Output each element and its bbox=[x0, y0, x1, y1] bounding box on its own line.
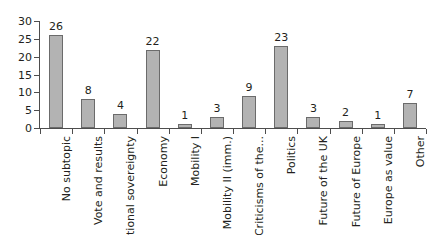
x-tick-mark bbox=[201, 129, 202, 134]
bar-group: 23 bbox=[265, 21, 297, 128]
x-tick-mark bbox=[137, 129, 138, 134]
x-tick-mark bbox=[394, 129, 395, 134]
y-tick-mark bbox=[34, 110, 39, 111]
x-tick-mark bbox=[104, 129, 105, 134]
bar-chart-figure: 051015202530 268422139233217 No subtopic… bbox=[0, 0, 438, 235]
x-tick-label: Politics bbox=[286, 136, 298, 174]
bar-group: 3 bbox=[201, 21, 233, 128]
y-tick-mark bbox=[34, 57, 39, 58]
bar-value-label: 2 bbox=[342, 107, 349, 118]
bar-value-label: 26 bbox=[49, 21, 63, 32]
bar bbox=[113, 114, 127, 128]
bar bbox=[178, 124, 192, 128]
y-tick-label: 0 bbox=[25, 123, 32, 134]
bar-value-label: 1 bbox=[374, 110, 381, 121]
x-tick-mark bbox=[265, 129, 266, 134]
x-tick-mark bbox=[169, 129, 170, 134]
bar-group: 26 bbox=[40, 21, 72, 128]
bar-group: 8 bbox=[72, 21, 104, 128]
bar-group: 7 bbox=[394, 21, 426, 128]
bar-group: 9 bbox=[233, 21, 265, 128]
x-tick-label: Mobility II (imm.) bbox=[222, 136, 234, 229]
bar bbox=[242, 96, 256, 128]
bar-group: 2 bbox=[330, 21, 362, 128]
y-tick-label: 25 bbox=[18, 33, 32, 44]
bar bbox=[403, 103, 417, 128]
x-tick-mark bbox=[72, 129, 73, 134]
y-tick-mark bbox=[34, 92, 39, 93]
bar bbox=[210, 117, 224, 128]
bar-value-label: 7 bbox=[406, 89, 413, 100]
y-tick-mark bbox=[34, 21, 39, 22]
bar-value-label: 3 bbox=[213, 103, 220, 114]
x-tick-label: Vote and results bbox=[93, 136, 105, 225]
y-tick-mark bbox=[34, 39, 39, 40]
bar bbox=[146, 50, 160, 128]
x-tick-container bbox=[40, 129, 426, 134]
x-tick-mark bbox=[297, 129, 298, 134]
bar-value-label: 22 bbox=[146, 36, 160, 47]
x-tick-mark bbox=[330, 129, 331, 134]
x-tick-mark bbox=[426, 129, 427, 134]
x-tick-label: Mobility I bbox=[190, 136, 202, 186]
x-tick-mark bbox=[362, 129, 363, 134]
bar-group: 3 bbox=[297, 21, 329, 128]
y-tick-label: 5 bbox=[25, 105, 32, 116]
x-axis-labels: No subtopicVote and resultsNational sove… bbox=[40, 136, 426, 235]
x-tick-mark bbox=[40, 129, 41, 134]
plot-area: 268422139233217 bbox=[40, 21, 426, 128]
y-tick-label: 15 bbox=[18, 69, 32, 80]
y-tick-label: 30 bbox=[18, 16, 32, 27]
x-tick-label: No subtopic bbox=[61, 136, 73, 201]
x-tick-mark bbox=[233, 129, 234, 134]
bar bbox=[306, 117, 320, 128]
bar-value-label: 4 bbox=[117, 100, 124, 111]
bar-group: 1 bbox=[169, 21, 201, 128]
bar-group: 22 bbox=[137, 21, 169, 128]
y-tick-label: 10 bbox=[18, 87, 32, 98]
y-tick-mark bbox=[34, 75, 39, 76]
bar bbox=[274, 46, 288, 128]
x-tick-label: Europe as value bbox=[383, 136, 395, 224]
bar-value-label: 9 bbox=[246, 82, 253, 93]
bar-value-label: 1 bbox=[181, 110, 188, 121]
y-axis: 051015202530 bbox=[0, 0, 44, 135]
x-tick-label: National sovereignty bbox=[125, 136, 137, 235]
bar bbox=[339, 121, 353, 128]
bar bbox=[81, 99, 95, 128]
x-tick-label: Economy bbox=[158, 136, 170, 187]
bar-value-label: 3 bbox=[310, 103, 317, 114]
x-tick-label: Other bbox=[415, 136, 427, 167]
bar bbox=[371, 124, 385, 128]
bar-group: 1 bbox=[362, 21, 394, 128]
bar-value-label: 23 bbox=[274, 32, 288, 43]
bar-value-label: 8 bbox=[85, 85, 92, 96]
x-tick-label: Future of Europe bbox=[351, 136, 363, 227]
bar bbox=[49, 35, 63, 128]
x-tick-label: Criticisms of the... bbox=[254, 136, 266, 235]
y-tick-label: 20 bbox=[18, 51, 32, 62]
bar-group: 4 bbox=[104, 21, 136, 128]
x-tick-label: Future of the UK bbox=[318, 136, 330, 225]
